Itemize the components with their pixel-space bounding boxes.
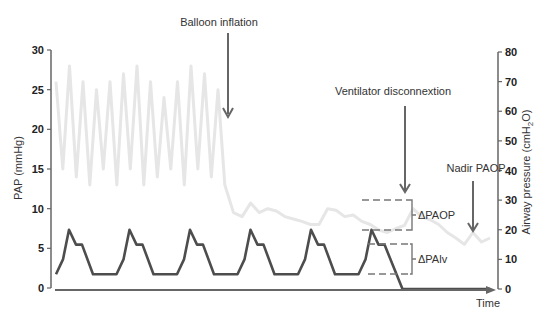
left-tick-label: 20	[32, 123, 44, 135]
pap-airway-pressure-chart: 051015202530 PAP (mmHg) 0102030405060708…	[0, 0, 548, 323]
right-tick-label: 20	[505, 224, 517, 236]
left-y-axis-title: PAP (mmHg)	[12, 136, 24, 200]
balloon-inflation-label: Balloon inflation	[180, 16, 258, 28]
right-tick-label: 80	[505, 46, 517, 58]
right-tick-label: 30	[505, 194, 517, 206]
left-tick-label: 15	[32, 163, 44, 175]
x-axis-arrow-icon	[486, 286, 496, 294]
right-tick-label: 50	[505, 135, 517, 147]
ventilator-disconnection-annotation: Ventilator disconnextion	[335, 85, 451, 192]
right-tick-label: 10	[505, 253, 517, 265]
ventilator-disconnection-label: Ventilator disconnextion	[335, 85, 451, 97]
right-tick-label: 0	[505, 283, 511, 295]
delta-paop-label: ΔPAOP	[418, 209, 455, 221]
left-tick-label: 0	[38, 282, 44, 294]
nadir-paop-annotation: Nadir PAOP	[446, 162, 505, 231]
x-axis: Time	[55, 286, 500, 309]
left-tick-label: 30	[32, 44, 44, 56]
left-y-axis: 051015202530 PAP (mmHg)	[12, 44, 51, 294]
right-y-axis-title: Airway pressure (cmH2O)	[520, 110, 535, 235]
x-axis-title: Time	[476, 297, 500, 309]
left-tick-label: 25	[32, 84, 44, 96]
nadir-paop-label: Nadir PAOP	[446, 162, 505, 174]
delta-palv-label: ΔPAlv	[418, 253, 448, 265]
delta-palv-bracket: ΔPAlv	[368, 244, 448, 274]
right-tick-label: 70	[505, 76, 517, 88]
left-tick-label: 10	[32, 203, 44, 215]
left-tick-label: 5	[38, 242, 44, 254]
right-tick-label: 60	[505, 105, 517, 117]
right-tick-label: 40	[505, 165, 517, 177]
